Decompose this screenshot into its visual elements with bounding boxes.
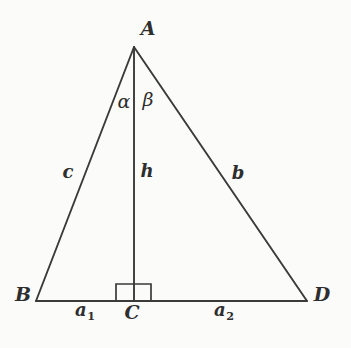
side-label-h: h (140, 162, 153, 180)
geometry-figure: A B C D c h b α β a1 a2 (0, 0, 351, 348)
segment-b-line (134, 47, 307, 301)
segment-c-line (36, 47, 134, 301)
angle-label-alpha: α (118, 92, 131, 111)
vertex-label-a: A (141, 19, 156, 38)
segment-label-a1-base: a (75, 299, 87, 320)
vertex-label-b: B (15, 285, 31, 304)
side-label-b: b (232, 164, 245, 182)
angle-label-beta: β (143, 90, 154, 109)
side-label-c: c (63, 163, 74, 181)
segment-label-a1: a1 (75, 301, 95, 322)
segment-label-a1-subscript: 1 (87, 309, 95, 322)
segment-label-a2-subscript: 2 (226, 309, 234, 322)
segment-label-a2: a2 (214, 301, 234, 322)
vertex-label-d: D (314, 285, 330, 304)
triangle-drawing (0, 0, 351, 348)
vertex-label-c: C (124, 303, 139, 322)
segment-label-a2-base: a (214, 299, 226, 320)
